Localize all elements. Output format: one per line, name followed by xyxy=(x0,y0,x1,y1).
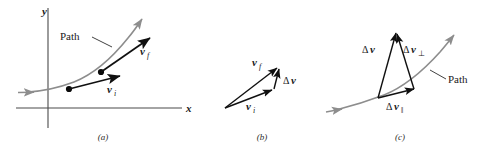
vector-v-initial-a xyxy=(69,76,120,89)
caption-b: (b) xyxy=(257,132,268,142)
vector-delta-v-parallel-c xyxy=(378,89,414,98)
delta-v-par-base-c: v xyxy=(394,100,399,112)
v-final-subscript: f xyxy=(147,51,151,60)
vector-label-v-final-a: v f xyxy=(140,45,151,60)
vector-label-v-initial-a: v i xyxy=(107,83,116,98)
delta-v-perp-delta-c: Δ xyxy=(403,44,410,55)
vector-delta-v-b xyxy=(274,69,279,89)
delta-v-par-subscript-c: ‖ xyxy=(401,106,403,115)
v-final-subscript-b: f xyxy=(259,62,263,71)
vector-v-final-b xyxy=(225,68,277,108)
y-axis-label: y xyxy=(40,5,47,17)
v-initial-subscript: i xyxy=(114,89,116,98)
caption-a: (a) xyxy=(98,132,109,142)
delta-v-delta-b: Δ xyxy=(283,75,290,86)
vector-label-v-final-b: v f xyxy=(252,56,263,71)
v-initial-base-b: v xyxy=(246,100,251,112)
delta-v-base-b: v xyxy=(291,74,296,86)
path-label-c: Path xyxy=(448,73,468,85)
vector-delta-v-c xyxy=(378,33,396,98)
v-initial-base: v xyxy=(107,83,112,95)
path-direction-arrow-c xyxy=(326,109,342,112)
path-label-a: Path xyxy=(60,30,80,42)
caption-c: (c) xyxy=(395,132,405,142)
figure-canvas: y x v i v f Path xyxy=(0,0,485,162)
delta-v-base-c: v xyxy=(370,43,375,55)
x-axis-label: x xyxy=(185,102,192,114)
path-leader-c xyxy=(430,70,446,79)
panel-c: Δ v Δ v ⊥ Δ v ‖ Path (c) xyxy=(326,33,468,142)
panel-a: y x v i v f Path xyxy=(16,5,192,142)
vector-label-delta-v-c: Δ v xyxy=(362,43,375,55)
vector-label-delta-v-perp-c: Δ v ⊥ xyxy=(403,43,425,58)
delta-v-perp-subscript-c: ⊥ xyxy=(418,49,425,58)
panel-b: v f v i Δ v (b) xyxy=(225,56,296,142)
vector-label-delta-v-parallel-c: Δ v ‖ xyxy=(386,100,403,115)
v-final-base: v xyxy=(140,45,145,57)
delta-v-perp-base-c: v xyxy=(411,43,416,55)
v-initial-subscript-b: i xyxy=(253,106,255,115)
path-leader-a xyxy=(92,37,112,47)
vector-label-v-initial-b: v i xyxy=(246,100,255,115)
physics-figure: y x v i v f Path xyxy=(0,0,485,162)
vector-label-delta-v-b: Δ v xyxy=(283,74,296,86)
delta-v-delta-c: Δ xyxy=(362,44,369,55)
v-final-base-b: v xyxy=(252,56,257,68)
path-curve-c xyxy=(336,35,454,110)
delta-v-par-delta-c: Δ xyxy=(386,101,393,112)
